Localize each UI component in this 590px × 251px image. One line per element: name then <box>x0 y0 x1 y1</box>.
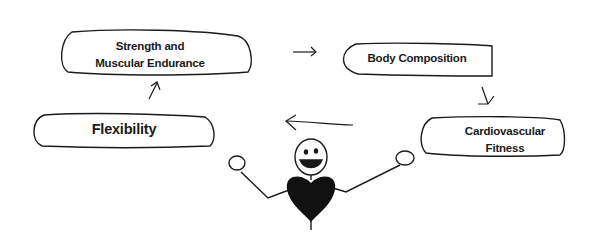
figure-smile <box>300 160 322 168</box>
figure-head <box>295 139 327 175</box>
strength-node-label-2: Muscular Endurance <box>62 55 238 72</box>
body-composition-node: Body Composition <box>342 50 492 66</box>
body-composition-node-label: Body Composition <box>342 50 492 66</box>
strength-node: Strength and Muscular Endurance <box>62 38 238 72</box>
cardiovascular-node-label-2: Fitness <box>425 140 585 157</box>
flexibility-node: Flexibility <box>34 120 214 138</box>
arrow-cardio-to-flexibility <box>286 115 353 130</box>
right-hand <box>396 151 414 165</box>
strength-node-label-1: Strength and <box>62 38 238 55</box>
cardiovascular-node-label-1: Cardiovascular <box>425 123 585 140</box>
arrow-strength-to-body <box>293 47 316 56</box>
right-arm <box>333 165 400 192</box>
left-arm <box>241 172 289 198</box>
heart-icon <box>287 177 334 221</box>
left-hand <box>229 156 245 170</box>
flexibility-node-label: Flexibility <box>34 120 214 138</box>
arrow-flexibility-to-strength <box>149 82 160 99</box>
stick-figure <box>229 139 414 230</box>
cardiovascular-node: Cardiovascular Fitness <box>425 123 585 157</box>
arrow-body-to-cardio <box>478 87 494 104</box>
